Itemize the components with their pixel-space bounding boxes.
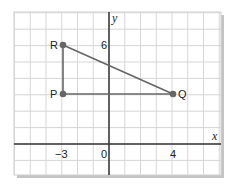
x-axis-label: x [211, 129, 218, 143]
point-p [60, 91, 67, 98]
y-axis-label: y [111, 11, 118, 25]
point-label-q: Q [178, 88, 187, 100]
point-label-p: P [50, 88, 57, 100]
point-r [60, 42, 67, 49]
point-label-r: R [50, 39, 58, 51]
tick-label-x-neg3: −3 [55, 148, 68, 160]
coordinate-grid-diagram: x y −3 0 4 6 R P Q [0, 0, 233, 185]
point-q [170, 91, 177, 98]
tick-label-y-6: 6 [101, 39, 107, 51]
tick-label-x-4: 4 [170, 148, 176, 160]
tick-label-origin: 0 [101, 148, 107, 160]
